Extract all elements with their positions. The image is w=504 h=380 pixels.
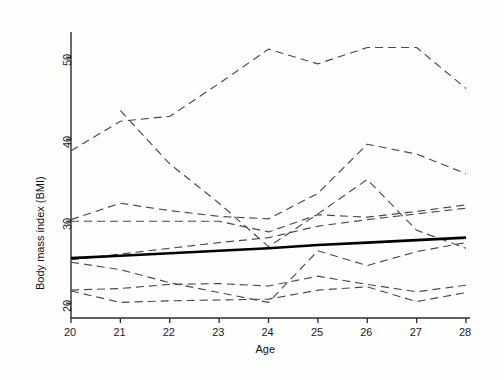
x-tick-label: 23 (212, 326, 224, 338)
x-tick-label: 28 (459, 326, 471, 338)
x-axis-title: Age (256, 343, 276, 355)
y-tick-label: 50 (61, 54, 73, 66)
series-subject-1 (71, 47, 466, 150)
x-tick-label: 21 (113, 326, 125, 338)
series-subject-5 (71, 208, 466, 260)
y-tick-label: 40 (61, 136, 73, 148)
chart-figure: Body mass index (BMI) Age 20304050202122… (0, 0, 504, 380)
x-tick-label: 20 (64, 326, 76, 338)
x-tick-label: 22 (163, 326, 175, 338)
x-tick-label: 25 (311, 326, 323, 338)
y-tick-label: 20 (61, 300, 73, 312)
x-tick-label: 24 (262, 326, 274, 338)
y-tick-label: 30 (61, 218, 73, 230)
series-subject-3 (71, 144, 466, 219)
series-population-mean-fit (71, 238, 466, 258)
series-subject-2 (120, 111, 466, 249)
series-subject-8 (71, 287, 466, 303)
series-subject-7 (71, 276, 466, 292)
y-axis-title: Body mass index (BMI) (34, 176, 46, 290)
series-subject-6 (71, 243, 466, 303)
x-tick-label: 27 (410, 326, 422, 338)
chart-plot-area (0, 0, 504, 380)
x-tick-label: 26 (360, 326, 372, 338)
